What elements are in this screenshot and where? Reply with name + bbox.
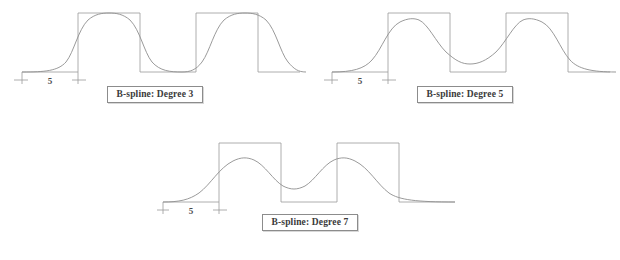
dimension-indicator-degree-3: 5: [14, 72, 86, 86]
caption-degree-5: B-spline: Degree 5: [417, 86, 514, 103]
plot-svg-degree-7: 5: [155, 130, 465, 225]
square-wave-degree-3: [22, 13, 300, 72]
plot-degree-5: 5: [310, 0, 620, 95]
panel-degree-7: 5 B-spline: Degree 7: [155, 130, 465, 260]
label-wrap-degree-3: B-spline: Degree 3: [0, 86, 310, 103]
plot-degree-7: 5: [155, 130, 465, 225]
label-wrap-degree-5: B-spline: Degree 5: [310, 86, 620, 103]
dimension-label-degree-5: 5: [358, 76, 363, 86]
panel-degree-5: 5 B-spline: Degree 5: [310, 0, 620, 130]
bspline-curve-degree-5: [332, 19, 616, 72]
dimension-indicator-degree-5: 5: [324, 72, 396, 86]
plot-svg-degree-5: 5: [310, 0, 620, 95]
label-wrap-degree-7: B-spline: Degree 7: [155, 214, 465, 231]
square-wave-degree-7: [163, 143, 455, 202]
panel-degree-3: 5 B-spline: Degree 3: [0, 0, 310, 130]
dimension-label-degree-3: 5: [48, 76, 53, 86]
plot-svg-degree-3: 5: [0, 0, 310, 95]
square-wave-degree-5: [332, 13, 610, 72]
bspline-curve-degree-3: [22, 13, 306, 72]
plot-degree-3: 5: [0, 0, 310, 95]
bspline-curve-degree-7: [163, 158, 455, 202]
caption-degree-7: B-spline: Degree 7: [262, 214, 359, 231]
caption-degree-3: B-spline: Degree 3: [107, 86, 204, 103]
